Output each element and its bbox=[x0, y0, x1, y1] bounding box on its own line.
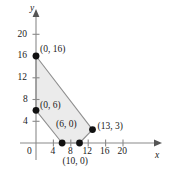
y-tick-label-4: 4 bbox=[23, 117, 28, 127]
point-label-10-0: (10, 0) bbox=[63, 157, 88, 167]
x-axis-label: x bbox=[155, 151, 159, 161]
y-tick-label-12: 12 bbox=[18, 73, 28, 83]
origin-label: 0 bbox=[27, 147, 32, 157]
data-point-0-6 bbox=[33, 107, 40, 114]
data-point-10-0 bbox=[76, 140, 83, 147]
y-tick-label-20: 20 bbox=[18, 30, 28, 40]
point-label-0-16: (0, 16) bbox=[40, 45, 65, 55]
x-tick-label-20: 20 bbox=[117, 147, 127, 157]
y-tick-label-8: 8 bbox=[23, 95, 28, 105]
data-point-0-16 bbox=[33, 53, 40, 60]
data-point-13-3 bbox=[89, 126, 96, 133]
x-tick-label-4: 4 bbox=[51, 147, 56, 157]
feasible-region-graph: y x 0 4 8 12 16 20 4 8 12 16 20 (0, 16) … bbox=[0, 0, 170, 176]
point-label-0-6: (0, 6) bbox=[40, 101, 61, 111]
point-label-13-3: (13, 3) bbox=[98, 122, 123, 132]
y-axis-label: y bbox=[30, 4, 34, 14]
y-tick-label-16: 16 bbox=[18, 51, 28, 61]
point-label-6-0: (6, 0) bbox=[56, 120, 77, 130]
x-tick-label-16: 16 bbox=[100, 147, 110, 157]
data-point-6-0 bbox=[59, 140, 66, 147]
x-axis-arrowhead bbox=[154, 140, 162, 147]
